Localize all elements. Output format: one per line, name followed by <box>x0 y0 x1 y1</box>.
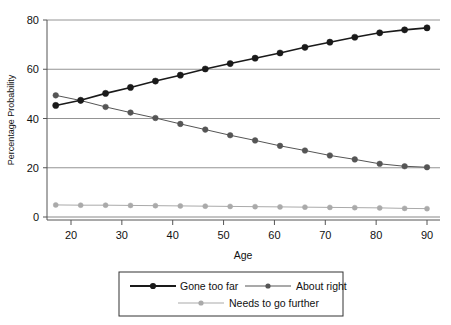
data-point <box>127 84 133 90</box>
data-point <box>327 205 332 210</box>
x-tick-label: 30 <box>116 229 128 241</box>
data-point <box>352 34 358 40</box>
data-point <box>102 90 108 96</box>
legend-label: About right <box>296 280 347 292</box>
data-point <box>327 39 333 45</box>
legend-swatch-marker <box>265 283 270 288</box>
y-tick-label: 40 <box>27 113 39 125</box>
data-point <box>202 127 208 133</box>
data-point <box>177 72 183 78</box>
x-tick-label: 90 <box>421 229 433 241</box>
data-point <box>152 78 158 84</box>
legend-label: Needs to go further <box>229 297 319 309</box>
y-axis-title: Percentage Probability <box>6 74 16 165</box>
data-point <box>352 205 357 210</box>
y-tick-label: 80 <box>27 14 39 26</box>
data-point <box>377 161 383 167</box>
data-point <box>402 163 408 169</box>
data-point <box>203 204 208 209</box>
data-point <box>277 143 283 149</box>
chart-legend: Gone too farAbout rightNeeds to go furth… <box>119 272 347 316</box>
data-point <box>153 115 159 121</box>
x-tick-label: 60 <box>268 229 280 241</box>
x-axis-title: Age <box>234 249 253 261</box>
data-point <box>227 132 233 138</box>
y-tick-label: 60 <box>27 63 39 75</box>
data-point <box>278 204 283 209</box>
data-point <box>78 97 84 103</box>
data-point <box>53 102 59 108</box>
data-point <box>377 205 382 210</box>
legend-swatch-marker <box>198 300 203 305</box>
legend-swatch-marker <box>150 283 156 289</box>
data-point <box>202 66 208 72</box>
chart-figure: 020406080 2030405060708090 Percentage Pr… <box>0 0 451 325</box>
data-point <box>302 205 307 210</box>
data-point <box>153 203 158 208</box>
legend-label: Gone too far <box>180 280 239 292</box>
data-point <box>227 60 233 66</box>
data-point <box>402 206 407 211</box>
x-tick-label: 40 <box>167 229 179 241</box>
data-point <box>78 203 83 208</box>
data-point <box>103 203 108 208</box>
data-point <box>377 30 383 36</box>
line-chart: 020406080 2030405060708090 Percentage Pr… <box>0 0 451 325</box>
data-point <box>53 93 59 99</box>
data-point <box>253 204 258 209</box>
y-tick-label: 0 <box>33 211 39 223</box>
data-point <box>103 104 109 110</box>
data-point <box>178 121 184 127</box>
x-tick-label: 20 <box>65 229 77 241</box>
data-point <box>277 50 283 56</box>
data-point <box>252 138 258 144</box>
data-point <box>302 44 308 50</box>
data-point <box>424 25 430 31</box>
data-point <box>327 153 333 159</box>
data-point <box>425 206 430 211</box>
data-point <box>228 204 233 209</box>
x-tick-label: 80 <box>370 229 382 241</box>
data-point <box>53 202 58 207</box>
legend-border <box>119 272 343 316</box>
data-point <box>424 164 430 170</box>
data-point <box>252 55 258 61</box>
data-point <box>178 203 183 208</box>
data-point <box>128 110 134 116</box>
data-point <box>302 148 308 154</box>
x-tick-label: 50 <box>217 229 229 241</box>
data-point <box>128 203 133 208</box>
data-point <box>402 27 408 33</box>
y-tick-label: 20 <box>27 162 39 174</box>
data-point <box>352 157 358 163</box>
x-tick-label: 70 <box>319 229 331 241</box>
